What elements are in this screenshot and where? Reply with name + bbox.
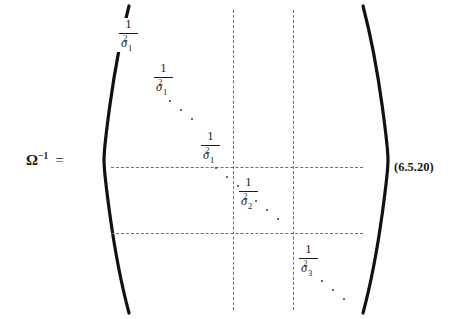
- sigma-superscript: 2: [123, 33, 127, 43]
- matrix-entry-3-3: 1 σ21: [199, 130, 222, 164]
- ellipsis-dot: [343, 298, 345, 300]
- ellipsis-block-1-to-2: [215, 167, 249, 193]
- sigma-subscript: 1: [128, 43, 132, 53]
- sigma-subscript: 3: [308, 268, 312, 278]
- ellipsis-block-3-trailing: [321, 280, 355, 306]
- omega-inverse-symbol: Ω−1: [26, 151, 48, 169]
- fraction-denominator: σ21: [154, 78, 173, 97]
- ellipsis-dot: [332, 289, 334, 291]
- sigma-subscript: 1: [210, 155, 214, 165]
- omega-glyph: Ω: [26, 152, 38, 168]
- fraction-numerator: 1: [299, 243, 318, 258]
- ellipsis-dot: [180, 109, 182, 111]
- fraction-numerator: 1: [154, 62, 173, 77]
- equation-left-hand-side: Ω−1 =: [26, 151, 64, 169]
- ellipsis-dot: [226, 176, 228, 178]
- equation-figure: Ω−1 = 1 σ21: [0, 0, 459, 319]
- gridline-vertical-1: [233, 10, 234, 310]
- fraction-denominator: σ21: [119, 34, 138, 53]
- matrix-body: 1 σ21 1 σ21 1 σ21 1 σ22: [103, 4, 389, 315]
- sigma-superscript: 2: [158, 77, 162, 87]
- fraction-numerator: 1: [119, 18, 138, 33]
- ellipsis-dot: [255, 200, 257, 202]
- fraction: 1 σ23: [299, 243, 318, 277]
- ellipsis-dot: [169, 100, 171, 102]
- gridline-horizontal-2: [111, 233, 363, 234]
- sigma-subscript: 2: [248, 201, 252, 211]
- fraction-numerator: 1: [201, 130, 220, 145]
- equation-number: (6.5.20): [394, 160, 434, 175]
- fraction-denominator: σ23: [299, 259, 318, 278]
- fraction: 1 σ21: [119, 18, 138, 52]
- ellipsis-dot: [191, 118, 193, 120]
- sigma-subscript: 1: [163, 87, 167, 97]
- omega-exponent: −1: [38, 151, 48, 161]
- fraction: 1 σ21: [201, 130, 220, 164]
- matrix-entry-1-1: 1 σ21: [117, 18, 140, 52]
- matrix-entry-2-2: 1 σ21: [152, 62, 175, 96]
- sigma-superscript: 2: [303, 258, 307, 268]
- ellipsis-dot: [237, 185, 239, 187]
- ellipsis-dot: [277, 218, 279, 220]
- right-parenthesis-icon: [360, 4, 390, 315]
- ellipsis-dot: [215, 167, 217, 169]
- matrix-entry-block3: 1 σ23: [297, 243, 320, 277]
- gridline-vertical-2: [293, 10, 294, 310]
- sigma-superscript: 2: [205, 145, 209, 155]
- equals-sign: =: [55, 152, 63, 169]
- ellipsis-block-1: [169, 100, 203, 126]
- ellipsis-block-2-to-3: [255, 200, 289, 226]
- fraction: 1 σ21: [154, 62, 173, 96]
- fraction-denominator: σ21: [201, 146, 220, 165]
- ellipsis-dot: [321, 280, 323, 282]
- ellipsis-dot: [266, 209, 268, 211]
